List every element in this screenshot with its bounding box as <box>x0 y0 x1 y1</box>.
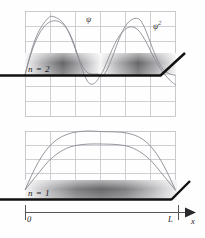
figure-particle-in-a-box: ψ ψ2 n = 2 n = 1 0 L x <box>0 0 205 238</box>
x-axis-label: x <box>191 216 195 226</box>
psi-label: ψ <box>86 14 91 24</box>
length-label: L <box>168 214 173 224</box>
psi-squared-label: ψ2 <box>153 20 161 31</box>
figure-canvas <box>0 0 205 238</box>
level-label-n2: n = 2 <box>28 64 50 74</box>
origin-label: 0 <box>27 214 31 224</box>
n1-grid <box>26 132 176 189</box>
psi-squared-exponent: 2 <box>158 20 161 26</box>
level-label-n1: n = 1 <box>28 188 50 198</box>
